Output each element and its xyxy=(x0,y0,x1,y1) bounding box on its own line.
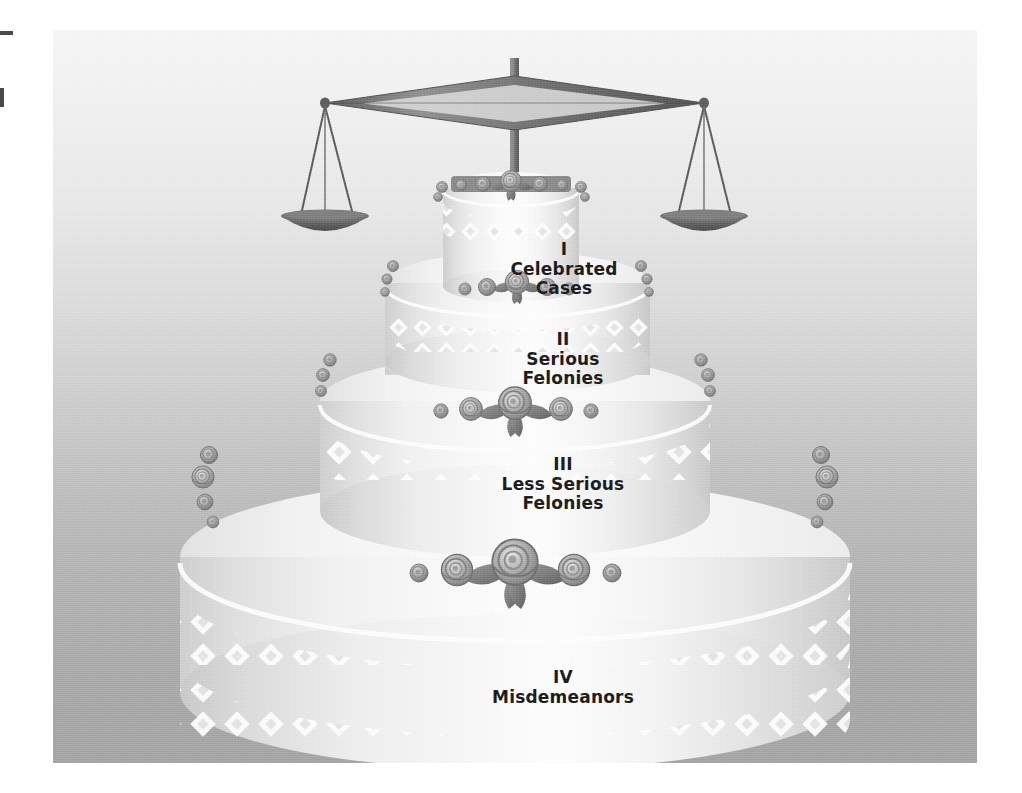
tier-2-name-line2: Felonies xyxy=(433,369,693,389)
scan-artifact-middle xyxy=(0,88,4,107)
scales-beam xyxy=(320,76,709,130)
tier-3-numeral: III xyxy=(373,455,753,475)
tier-1-name-line1: Celebrated xyxy=(496,260,632,280)
tier-3-name-line2: Felonies xyxy=(373,494,753,514)
scales-pan-right xyxy=(660,106,748,231)
tier-2-numeral: II xyxy=(433,330,693,350)
tier-1-label: I Celebrated Cases xyxy=(496,240,632,299)
scales-pan-left xyxy=(281,106,369,231)
scan-artifact-top xyxy=(0,31,13,35)
tier-2-label: II Serious Felonies xyxy=(433,330,693,389)
tier-4-numeral: IV xyxy=(303,668,823,688)
tier-3-label: III Less Serious Felonies xyxy=(373,455,753,514)
cake-illustration: I Celebrated Cases II Serious Felonies I… xyxy=(53,30,977,763)
tier-3-name-line1: Less Serious xyxy=(373,475,753,495)
tier-1-numeral: I xyxy=(496,240,632,260)
tier-1-name-line2: Cases xyxy=(496,279,632,299)
tier-4-label: IV Misdemeanors xyxy=(303,668,823,707)
tier-4-name-line1: Misdemeanors xyxy=(303,688,823,708)
figure-canvas: I Celebrated Cases II Serious Felonies I… xyxy=(0,0,1022,793)
tier-2-name-line1: Serious xyxy=(433,350,693,370)
